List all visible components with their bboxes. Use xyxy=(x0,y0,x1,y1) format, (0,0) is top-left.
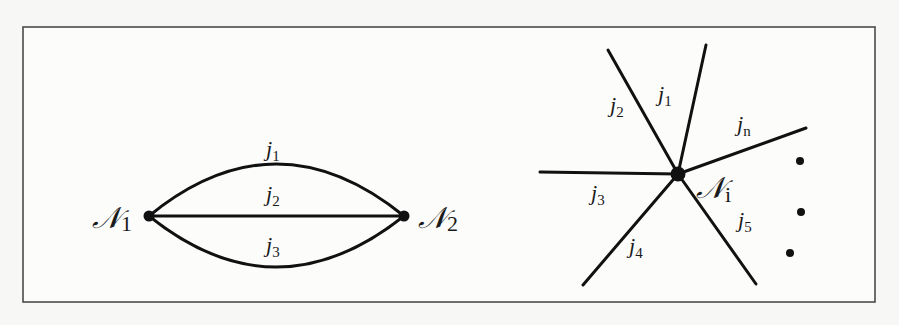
edge-j3 xyxy=(540,172,678,174)
ellipsis-dot xyxy=(796,157,804,165)
ellipsis-dot xyxy=(786,249,794,257)
node-n2 xyxy=(399,211,410,222)
node-n1 xyxy=(144,211,155,222)
figure-frame xyxy=(23,27,875,302)
node-ni xyxy=(671,167,686,182)
ellipsis-dot xyxy=(797,208,805,216)
graph-figure: j1 j2 j3 𝒩1 𝒩2 j1 j2 j3 j4 j5 jn 𝒩i xyxy=(0,0,899,325)
